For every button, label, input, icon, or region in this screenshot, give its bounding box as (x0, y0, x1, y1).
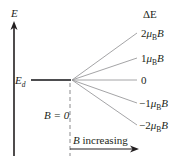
split-level-lines (72, 33, 137, 125)
level-label-minus-1: −1μBB (139, 97, 168, 112)
zeeman-splitting-diagram: E Ed ΔE 2μBB 1μBB 0 −1μBB −2μBB (0, 0, 185, 165)
level-label-zero: 0 (141, 74, 147, 86)
level-label-plus-1: 1μBB (141, 52, 164, 67)
split-line-minus-2 (72, 80, 137, 125)
split-line-plus-2 (72, 33, 137, 80)
split-line-minus-1 (72, 80, 137, 103)
field-increasing-label: B increasing (73, 134, 128, 146)
initial-energy-level: Ed (14, 74, 71, 89)
zero-field-label: B = 0 (44, 109, 70, 121)
initial-level-label: Ed (14, 74, 26, 89)
delta-e-header: ΔE (143, 8, 157, 20)
level-label-plus-2: 2μBB (141, 27, 164, 42)
field-increasing-arrow: B increasing (70, 134, 139, 153)
split-line-plus-1 (72, 58, 137, 80)
energy-axis-label: E (10, 7, 18, 19)
level-label-minus-2: −2μBB (139, 119, 168, 134)
level-labels: 2μBB 1μBB 0 −1μBB −2μBB (139, 27, 168, 134)
